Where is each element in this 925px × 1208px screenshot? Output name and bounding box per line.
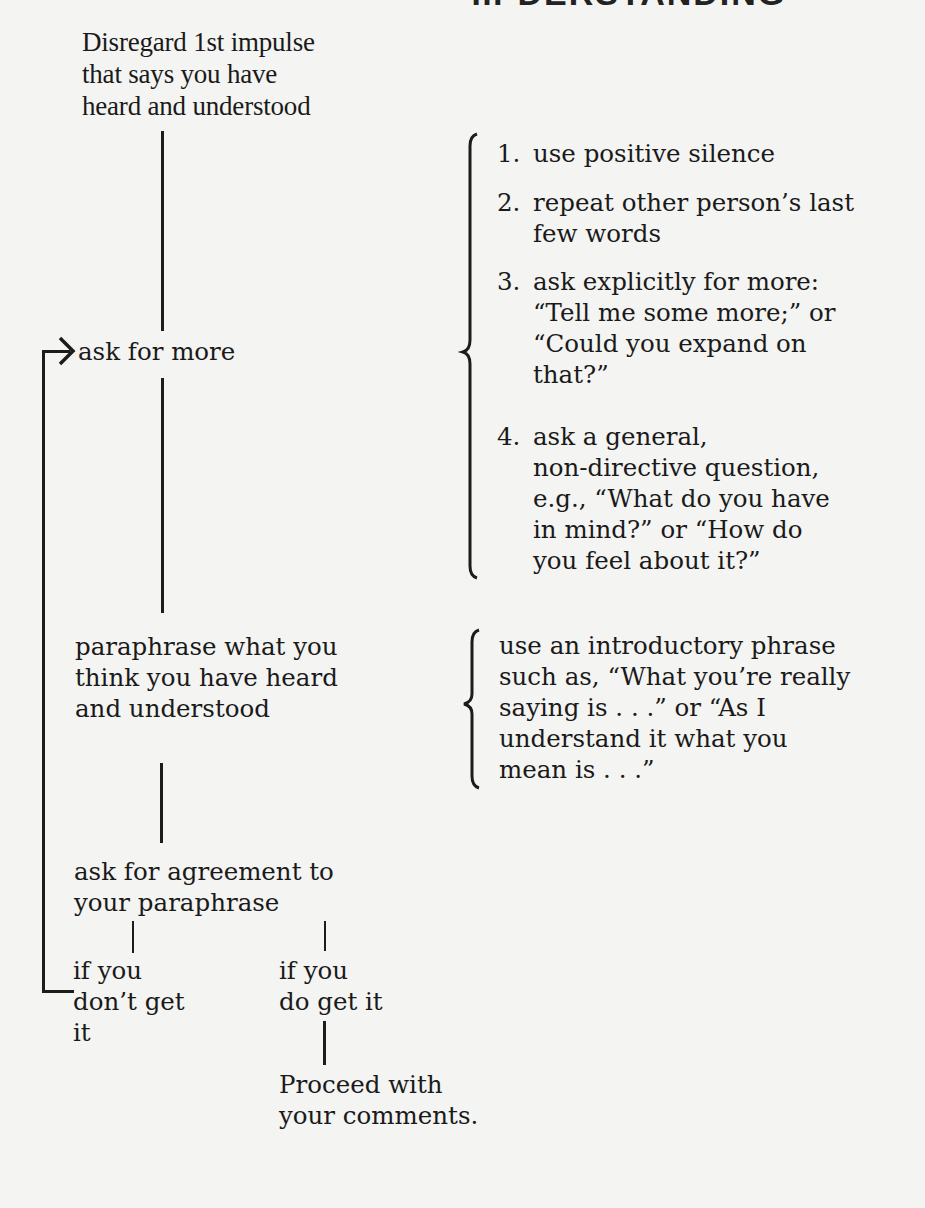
method-text: ask explicitly for more: “Tell me some m… <box>533 266 836 390</box>
method-number: 2. <box>497 187 520 218</box>
method-number: 1. <box>497 138 520 169</box>
method-text: repeat other person’s last few words <box>533 187 854 249</box>
left-brace-icon <box>464 630 479 788</box>
method-text: ask a general, non-directive question, e… <box>533 421 830 576</box>
arrow-right-icon <box>60 338 73 364</box>
book-page: … DERSTANDING Disregard 1st impulse that… <box>0 0 925 1208</box>
method-number: 3. <box>497 266 520 297</box>
diagram-shapes <box>0 0 925 1208</box>
method-text: use positive silence <box>533 138 775 169</box>
method-number: 4. <box>497 421 520 452</box>
paraphrase-tip: use an introductory phrase such as, “Wha… <box>499 630 850 785</box>
left-brace-icon <box>463 134 477 578</box>
